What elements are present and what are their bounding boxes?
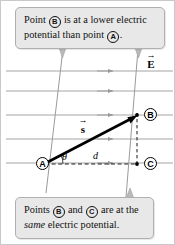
displacement-label-text: s: [81, 123, 85, 135]
callout-top-mid: is at a lower electric: [61, 14, 146, 25]
point-marker-c: C: [144, 157, 157, 170]
inline-circle-a-icon: A: [107, 31, 119, 43]
inline-circle-b-icon: B: [49, 16, 61, 28]
callout-bottom-line-2: same electric potential.: [24, 218, 147, 233]
angle-theta-label: θ: [62, 151, 67, 162]
callout-bottom-mid: and: [65, 204, 85, 215]
callout-top-prefix: Point: [24, 14, 48, 25]
efield-label: → E: [144, 53, 158, 70]
inline-circle-b2-icon: B: [53, 206, 65, 218]
callout-top-suffix: .: [120, 29, 123, 40]
point-b-dot: [135, 113, 139, 117]
callout-bottom-emphasis: same: [24, 219, 45, 230]
point-b-lower-potential-callout: Point B is at a lower electric potential…: [15, 7, 165, 49]
efield-arrow-icon: →: [144, 53, 158, 57]
displacement-label: → s: [77, 118, 89, 135]
callout-bottom-prefix: Points: [24, 204, 52, 215]
callout-top-line-2: potential than point A.: [24, 28, 158, 43]
callout-top-line-1: Point B is at a lower electric: [24, 13, 158, 28]
point-marker-b: B: [144, 108, 157, 121]
figure-canvas: A B C → E → s θ d Point B is at a lower …: [0, 0, 175, 245]
efield-label-text: E: [147, 58, 154, 70]
displacement-arrow-icon: →: [77, 118, 89, 122]
inline-circle-c-icon: C: [86, 206, 98, 218]
callout-pointers: [58, 45, 143, 201]
displacement-vector-s: [43, 115, 138, 164]
point-marker-a: A: [36, 157, 49, 170]
callout-top-line2-text: potential than point: [24, 29, 107, 40]
callout-bottom-line-1: Points B and C are at the: [24, 203, 147, 218]
distance-d-label: d: [93, 150, 98, 161]
same-potential-callout: Points B and C are at the same electric …: [15, 197, 154, 239]
point-c-dot: [135, 162, 139, 166]
callout-bottom-rest: electric potential.: [45, 219, 119, 230]
callout-bottom-suffix: are at the: [98, 204, 138, 215]
